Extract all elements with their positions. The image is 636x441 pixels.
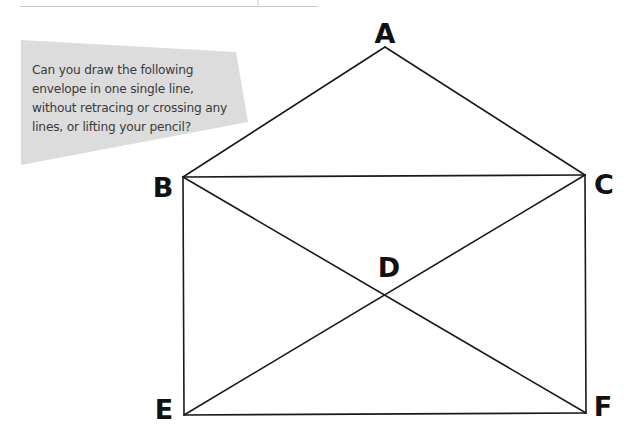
edge-be bbox=[183, 177, 184, 415]
edge-ef bbox=[184, 413, 586, 415]
vertex-label-b: B bbox=[153, 172, 174, 203]
header-rule bbox=[20, 0, 318, 7]
edge-ac bbox=[385, 47, 585, 175]
vertex-label-c: C bbox=[594, 169, 614, 200]
edge-ce bbox=[184, 175, 585, 415]
edge-bc bbox=[183, 175, 585, 177]
vertex-label-a: A bbox=[375, 18, 396, 49]
prompt-line: without retracing or crossing any bbox=[32, 99, 232, 118]
vertex-label-d: D bbox=[378, 252, 400, 283]
vertex-label-f: F bbox=[594, 391, 612, 422]
prompt-line: envelope in one single line, bbox=[32, 80, 232, 99]
prompt-line: lines, or lifting your pencil? bbox=[32, 118, 232, 137]
vertex-label-e: E bbox=[155, 394, 173, 425]
puzzle-prompt: Can you draw the following envelope in o… bbox=[32, 61, 232, 137]
prompt-line: Can you draw the following bbox=[32, 61, 232, 80]
edge-cf bbox=[585, 175, 586, 413]
